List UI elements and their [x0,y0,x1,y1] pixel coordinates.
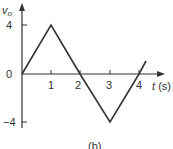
x-axis-label: t (s) [152,80,171,92]
x-axis-arrow-icon [157,71,165,77]
figure-caption: (b) [88,140,101,149]
x-tick-label-4: 4 [136,79,142,91]
x-tick-label-1: 1 [48,79,54,91]
y-axis-arrow-icon [19,3,25,11]
waveform-chart: vo 4 0 −4 1 2 3 4 t (s) (b) [0,0,173,149]
x-tick-label-3: 3 [106,79,112,91]
x-tick-label-2: 2 [75,79,81,91]
y-tick-label-neg4: −4 [3,116,16,128]
y-tick-label-0: 0 [6,68,12,80]
y-axis-label: vo [2,4,13,18]
y-tick-label-4: 4 [6,19,12,31]
